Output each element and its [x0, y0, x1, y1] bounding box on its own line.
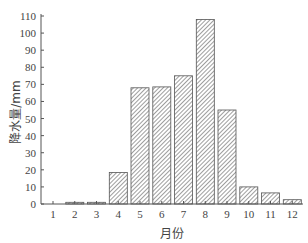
x-tick-label: 11	[265, 208, 276, 220]
x-tick-label: 5	[137, 208, 143, 220]
x-axis-title: 月份	[160, 227, 184, 241]
y-tick-label: 80	[25, 61, 37, 73]
x-tick-label: 1	[50, 208, 56, 220]
y-axis-title: 降水量/mm	[9, 80, 23, 143]
precipitation-bar-chart: 0102030405060708090100110123456789101112…	[0, 0, 308, 243]
y-tick-label: 60	[25, 95, 37, 107]
x-tick-label: 8	[203, 208, 209, 220]
y-tick-label: 70	[25, 78, 37, 90]
y-tick-label: 20	[25, 164, 37, 176]
x-tick-label: 2	[72, 208, 78, 220]
axes	[41, 14, 303, 204]
y-tick-label: 50	[25, 113, 37, 125]
y-tick-label: 90	[25, 44, 37, 56]
bar-month-5	[131, 88, 149, 204]
y-tick-label: 10	[25, 181, 37, 193]
bar-month-7	[175, 76, 193, 204]
y-tick-label: 110	[20, 10, 37, 22]
y-tick-label: 100	[20, 27, 37, 39]
bar-month-6	[153, 87, 171, 204]
x-tick-label: 3	[94, 208, 100, 220]
x-tick-label: 6	[159, 208, 165, 220]
plot-area: 0102030405060708090100110123456789101112	[20, 10, 304, 220]
y-tick-label: 30	[25, 147, 37, 159]
y-tick-label: 0	[31, 198, 37, 210]
x-tick-label: 10	[243, 208, 255, 220]
bar-month-4	[109, 172, 127, 204]
bar-month-9	[218, 110, 236, 204]
y-tick-label: 40	[25, 130, 37, 142]
bar-month-8	[196, 19, 214, 204]
x-tick-label: 4	[116, 208, 122, 220]
x-tick-label: 7	[181, 208, 187, 220]
x-tick-label: 12	[287, 208, 298, 220]
x-tick-label: 9	[224, 208, 230, 220]
